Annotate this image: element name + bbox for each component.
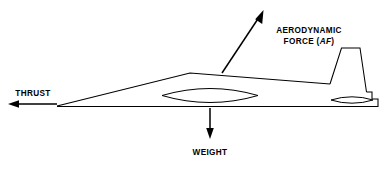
aerodynamic-force-arrow-shaft bbox=[222, 17, 260, 74]
aerodynamic-force-label-line2: FORCE (AF) bbox=[284, 37, 335, 46]
aerodynamic-force-label-prefix: FORCE ( bbox=[284, 37, 320, 46]
thrust-vector: THRUST bbox=[8, 89, 57, 108]
aircraft-forces-diagram: THRUST WEIGHT AERODYNAMIC FORCE (AF) bbox=[0, 0, 389, 169]
center-lens-detail bbox=[162, 89, 258, 103]
tail-fin bbox=[330, 48, 367, 92]
aerodynamic-force-label-suffix: ) bbox=[331, 37, 334, 46]
aerodynamic-force-label-line1: AERODYNAMIC bbox=[276, 26, 342, 35]
weight-vector: WEIGHT bbox=[193, 108, 228, 157]
forces-diagram-root: THRUST WEIGHT AERODYNAMIC FORCE (AF) bbox=[0, 0, 389, 169]
aerodynamic-force-vector: AERODYNAMIC FORCE (AF) bbox=[222, 10, 342, 73]
aft-lens-detail bbox=[331, 97, 373, 103]
weight-arrow-head bbox=[206, 128, 214, 139]
aircraft-silhouette bbox=[57, 48, 378, 107]
thrust-label: THRUST bbox=[15, 89, 50, 98]
weight-label: WEIGHT bbox=[193, 148, 228, 157]
aerodynamic-force-symbol: AF bbox=[319, 37, 332, 46]
thrust-arrow-head bbox=[8, 100, 19, 108]
